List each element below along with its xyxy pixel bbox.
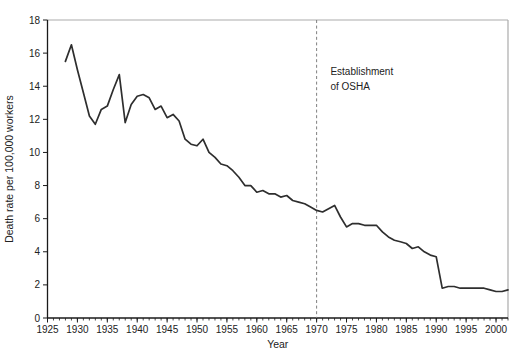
x-tick-label: 2000 bbox=[485, 324, 508, 335]
x-tick-label: 1990 bbox=[425, 324, 448, 335]
y-tick-label: 8 bbox=[34, 180, 40, 191]
x-tick-label: 1940 bbox=[126, 324, 149, 335]
x-tick-label: 1945 bbox=[156, 324, 179, 335]
x-tick-label: 1925 bbox=[36, 324, 59, 335]
y-tick-label: 18 bbox=[29, 15, 41, 26]
x-axis-title: Year bbox=[267, 338, 289, 350]
y-tick-label: 2 bbox=[34, 279, 40, 290]
osha-annotation-line-1: Establishment bbox=[330, 66, 393, 77]
osha-annotation-line-2: of OSHA bbox=[330, 81, 370, 92]
x-tick-label: 1985 bbox=[395, 324, 418, 335]
x-tick-label: 1955 bbox=[216, 324, 239, 335]
y-tick-label: 0 bbox=[34, 313, 40, 324]
y-tick-label: 14 bbox=[29, 81, 41, 92]
y-tick-label: 4 bbox=[34, 246, 40, 257]
chart-figure: 1925193019351940194519501955196019651970… bbox=[0, 0, 519, 362]
x-tick-label: 1970 bbox=[305, 324, 328, 335]
y-tick-label: 16 bbox=[29, 48, 41, 59]
x-tick-label: 1995 bbox=[455, 324, 478, 335]
x-tick-label: 1935 bbox=[96, 324, 119, 335]
y-tick-label: 12 bbox=[29, 114, 41, 125]
death-rate-line bbox=[65, 45, 508, 292]
x-tick-label: 1980 bbox=[365, 324, 388, 335]
x-tick-label: 1950 bbox=[186, 324, 209, 335]
x-tick-label: 1975 bbox=[335, 324, 358, 335]
chart-svg: 1925193019351940194519501955196019651970… bbox=[0, 0, 519, 362]
x-tick-label: 1965 bbox=[276, 324, 299, 335]
y-tick-label: 6 bbox=[34, 213, 40, 224]
y-tick-label: 10 bbox=[29, 147, 41, 158]
x-tick-label: 1960 bbox=[246, 324, 269, 335]
x-tick-label: 1930 bbox=[66, 324, 89, 335]
y-axis-title: Death rate per 100,000 workers bbox=[3, 95, 15, 243]
